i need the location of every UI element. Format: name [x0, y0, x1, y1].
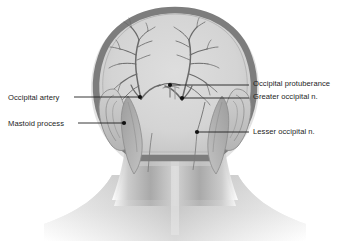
label-lesser-occipital-nerve: Lesser occipital n.	[253, 128, 315, 136]
marker-dot-occipital-protuberance	[168, 83, 172, 87]
marker-dot-occipital-artery	[138, 95, 142, 99]
label-occipital-protuberance: Occipital protuberance	[253, 80, 330, 88]
label-occipital-artery: Occipital artery	[8, 94, 59, 102]
anatomy-figure: Occipital artery Mastoid process Occipit…	[0, 0, 350, 241]
label-greater-occipital-nerve: Greater occipital n.	[253, 93, 318, 101]
marker-dot-mastoid-process	[122, 121, 126, 125]
marker-dot-lesser-occipital-nerve	[195, 130, 199, 134]
label-mastoid-process: Mastoid process	[8, 120, 64, 128]
marker-dot-greater-occipital-nerve	[180, 96, 184, 100]
